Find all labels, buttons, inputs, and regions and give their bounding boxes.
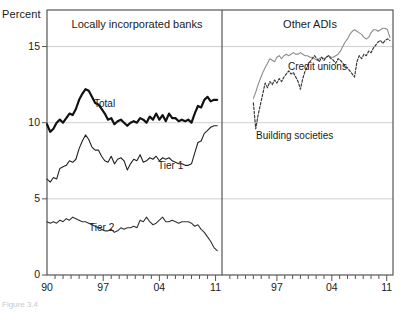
series-label-credit-unions: Credit unions <box>288 61 347 72</box>
chart-canvas <box>0 0 405 313</box>
series-label-total: Total <box>94 98 115 109</box>
x-tick-label-11: 11 <box>202 281 230 293</box>
y-tick-label-15: 15 <box>18 40 40 52</box>
x-tick-label-97: 97 <box>263 281 291 293</box>
y-tick-label-0: 0 <box>18 268 40 280</box>
series-line-tier-2 <box>47 217 217 251</box>
series-label-tier-2: Tier 2 <box>89 222 114 233</box>
y-tick-label-10: 10 <box>18 116 40 128</box>
series-line-building-societies <box>253 39 389 129</box>
x-tick-label-04: 04 <box>318 281 346 293</box>
series-label-tier-1: Tier 1 <box>158 160 183 171</box>
panel-title-locally-incorporated-banks: Locally incorporated banks <box>62 18 212 30</box>
figure-root: Percent Locally incorporated banks Other… <box>0 0 405 313</box>
figure-caption: Figure 3.4 <box>2 300 38 309</box>
panel-title-other-adis: Other ADIs <box>235 18 385 30</box>
series-line-tier-1 <box>47 126 217 182</box>
y-axis-unit-label: Percent <box>2 8 41 20</box>
series-line-total <box>47 89 217 132</box>
x-tick-label-90: 90 <box>33 281 61 293</box>
y-tick-label-5: 5 <box>18 192 40 204</box>
x-tick-label-97: 97 <box>89 281 117 293</box>
x-tick-label-04: 04 <box>145 281 173 293</box>
x-tick-label-11: 11 <box>373 281 401 293</box>
series-label-building-societies: Building societies <box>256 130 333 141</box>
